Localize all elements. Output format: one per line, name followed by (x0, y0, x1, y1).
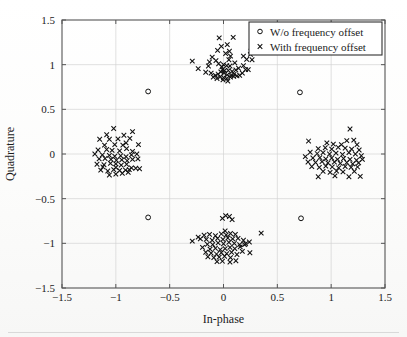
data-point-x (240, 249, 245, 254)
data-point-x (221, 237, 226, 242)
x-tick-label: 0 (221, 291, 227, 303)
data-point-x (130, 157, 135, 162)
figure-container: −1.5−1−0.500.511.5−1.5−1−0.500.511.5In-p… (0, 0, 407, 337)
data-point-x (229, 250, 234, 255)
legend: W/o frequency offsetWith frequency offse… (249, 22, 382, 55)
data-point-x (349, 147, 354, 152)
data-point-x (217, 36, 222, 41)
data-point-x (358, 174, 363, 179)
data-point-x (343, 164, 348, 169)
data-point-x (230, 217, 235, 222)
data-point-x (214, 58, 219, 63)
data-point-x (97, 157, 102, 162)
data-point-x (100, 153, 105, 158)
data-point-x (107, 173, 112, 178)
y-tick-label: −1.5 (35, 282, 55, 294)
data-point-x (136, 157, 141, 162)
data-point-x (128, 136, 133, 141)
data-point-x (210, 238, 215, 243)
data-point-x (315, 151, 320, 156)
data-point-x (321, 169, 326, 174)
data-point-x (340, 152, 345, 157)
data-point-x (330, 165, 335, 170)
data-point-x (316, 174, 321, 179)
data-point-circle (146, 89, 151, 94)
data-point-x (351, 138, 356, 143)
data-point-x (117, 149, 122, 154)
data-point-x (124, 154, 129, 159)
data-point-x (332, 160, 337, 165)
data-point-x (244, 57, 249, 62)
x-tick-label: 1.5 (378, 291, 392, 303)
legend-label-2: With frequency offset (270, 41, 366, 53)
data-point-x (341, 170, 346, 175)
data-point-x (220, 259, 225, 264)
data-point-x (306, 160, 311, 165)
data-point-x (228, 255, 233, 260)
data-point-x (235, 252, 240, 257)
data-point-circle (299, 216, 304, 221)
data-point-x (206, 254, 211, 259)
data-point-x (215, 48, 220, 53)
data-point-x (136, 142, 141, 147)
data-point-x (222, 254, 227, 259)
data-point-x (96, 148, 101, 153)
data-point-x (215, 236, 220, 241)
data-point-x (334, 151, 339, 156)
data-point-x (205, 242, 210, 247)
data-point-x (226, 68, 231, 73)
data-point-x (212, 255, 217, 260)
data-point-x (228, 245, 233, 250)
data-point-x (196, 66, 201, 71)
data-point-x (129, 153, 134, 158)
data-point-x (119, 158, 124, 163)
data-point-x (230, 69, 235, 74)
data-point-x (344, 160, 349, 165)
x-tick-label: 1 (328, 291, 334, 303)
data-point-x (233, 232, 238, 237)
x-tick-label: −0.5 (160, 291, 180, 303)
y-tick-label: 0.5 (41, 103, 55, 115)
data-point-x (104, 132, 109, 137)
data-point-x (228, 260, 233, 265)
data-point-x (341, 156, 346, 161)
data-point-x (311, 156, 316, 161)
data-point-x (217, 255, 222, 260)
data-point-x (198, 237, 203, 242)
data-point-x (231, 35, 236, 40)
data-point-x (329, 147, 334, 152)
x-tick-label: −1.5 (52, 291, 72, 303)
x-tick-label: 0.5 (270, 291, 284, 303)
data-point-x (331, 142, 336, 147)
data-point-x (207, 60, 212, 65)
data-point-x (97, 137, 102, 142)
data-point-x (344, 138, 349, 143)
data-point-x (104, 147, 109, 152)
data-point-x (316, 146, 321, 151)
data-point-x (203, 70, 208, 75)
x-axis-label: In-phase (203, 312, 244, 326)
data-point-x (111, 126, 116, 131)
data-point-x (213, 246, 218, 251)
data-point-x (250, 57, 255, 62)
data-point-x (130, 129, 135, 134)
data-point-x (225, 42, 230, 47)
data-point-x (355, 142, 360, 147)
y-tick-label: −1 (43, 237, 55, 249)
y-axis-label: Quadrature (3, 127, 17, 181)
data-point-x (95, 162, 100, 167)
data-point-x (124, 162, 129, 167)
data-point-x (303, 154, 308, 159)
data-point-x (200, 245, 205, 250)
y-tick-label: −0.5 (35, 193, 55, 205)
data-point-x (248, 250, 253, 255)
data-point-circle (298, 90, 303, 95)
data-point-x (216, 241, 221, 246)
data-point-x (328, 170, 333, 175)
data-point-x (234, 258, 239, 263)
data-point-x (119, 163, 124, 168)
data-point-x (352, 169, 357, 174)
data-point-x (105, 169, 110, 174)
data-point-x (355, 165, 360, 170)
data-point-x (190, 239, 195, 244)
